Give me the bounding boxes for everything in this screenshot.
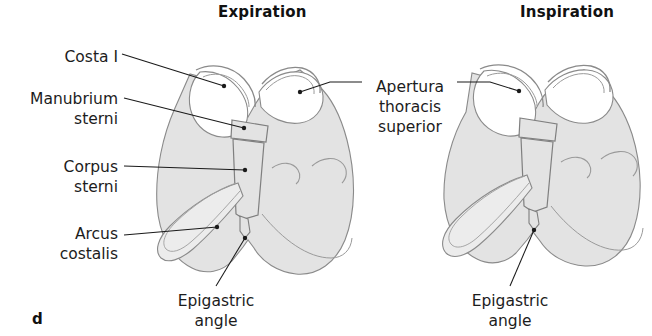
title-expiration: Expiration xyxy=(218,3,307,21)
label-epigastric-angle-left-line2: angle xyxy=(156,311,276,331)
label-epigastric-angle-right-line2: angle xyxy=(450,311,570,331)
label-epigastric-angle-left-line1: Epigastric xyxy=(156,291,276,311)
label-arcus-costalis-line2: costalis xyxy=(0,244,118,264)
panel-letter-d: d xyxy=(32,310,43,328)
label-manubrium-sterni-line2: sterni xyxy=(0,109,118,129)
label-arcus-costalis-line1: Arcus xyxy=(0,224,118,244)
label-manubrium-sterni-line1: Manubrium xyxy=(0,89,118,109)
label-apertura-thoracis-superior-line1: Apertura xyxy=(360,77,460,97)
label-epigastric-angle-right-line1: Epigastric xyxy=(450,291,570,311)
thorax-expiration-drawing xyxy=(157,66,354,274)
label-corpus-sterni-line2: sterni xyxy=(0,177,118,197)
label-costa-i: Costa I xyxy=(0,47,118,67)
leader-costa-i xyxy=(122,54,224,86)
label-apertura-thoracis-superior-line2: thoracis xyxy=(360,97,460,117)
thorax-inspiration-drawing xyxy=(443,65,643,266)
title-inspiration: Inspiration xyxy=(520,3,614,21)
thorax-respiration-figure: Expiration Inspiration Costa I Manubrium… xyxy=(0,0,652,336)
label-corpus-sterni-line1: Corpus xyxy=(0,157,118,177)
label-apertura-thoracis-superior-line3: superior xyxy=(360,117,460,137)
